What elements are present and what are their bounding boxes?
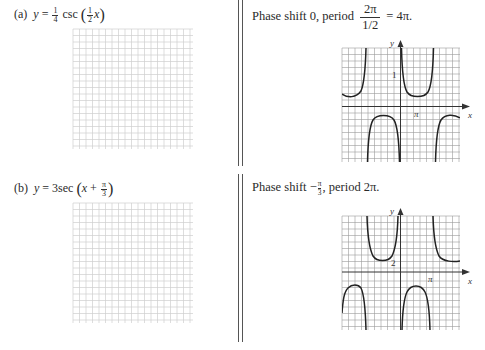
equals-sign: = [42, 181, 49, 195]
y-axis-label: y [389, 38, 394, 48]
y-axis-arrow-icon [398, 40, 404, 47]
blank-grid-b[interactable] [72, 202, 194, 324]
column-divider-b [238, 174, 243, 342]
answer-b-suffix: , period 2π. [322, 180, 379, 194]
x-axis-label: x [467, 276, 472, 286]
period-numerator: 2π [360, 2, 380, 18]
period-fraction: 2π 1/2 [360, 2, 380, 33]
period-denominator: 1/2 [360, 18, 380, 33]
close-paren: ) [108, 180, 113, 197]
y-axis-arrow-icon [398, 208, 404, 215]
problem-a-label: (a) [14, 7, 27, 21]
problem-b-equation: (b) y = 3sec (x + π 3 ) [14, 180, 113, 198]
grid-lines [73, 203, 193, 323]
answer-b-prefix: Phase shift − [252, 180, 317, 194]
coef-denominator: 4 [52, 16, 58, 24]
problem-b-label: (b) [14, 181, 28, 195]
answer-b-text: Phase shift − π 3 , period 2π. [252, 180, 379, 197]
answer-a-prefix: Phase shift 0, period [252, 9, 354, 23]
x-tick-label: π [414, 109, 419, 119]
argument-fraction: π 3 [101, 181, 107, 198]
answer-a-suffix: = 4π. [386, 9, 412, 23]
open-paren: ( [81, 6, 86, 23]
x-axis-arrow-icon [462, 269, 470, 275]
x-tick-label: π [428, 274, 433, 284]
problem-a-equation: (a) y = 1 4 csc ( 1 2 x) [14, 6, 105, 24]
lhs-var: y [33, 7, 38, 21]
equals-sign: = [42, 7, 49, 21]
y-tick-label: 1 [392, 70, 397, 80]
y-axis-label: y [389, 206, 394, 216]
blank-grid-a[interactable] [72, 28, 194, 150]
y-tick-label: 2 [391, 258, 396, 268]
close-paren: ) [99, 6, 104, 23]
arg-denominator: 2 [87, 16, 93, 24]
argument-fraction: 1 2 [87, 7, 93, 24]
coefficient-fraction: 1 4 [52, 7, 58, 24]
shift-denominator: 3 [318, 189, 322, 197]
x-axis-label: x [467, 110, 472, 120]
grid-lines [73, 29, 193, 149]
function-name: csc [62, 7, 77, 21]
phase-shift-fraction: π 3 [318, 180, 322, 197]
function-name: sec [58, 181, 73, 195]
lhs-var: y [34, 181, 39, 195]
answer-graph-a: y x 1 π [336, 36, 485, 166]
arg-operator: + [90, 181, 97, 195]
x-axis-arrow-icon [462, 104, 470, 110]
answer-a-text: Phase shift 0, period 2π 1/2 = 4π. [252, 2, 412, 33]
column-divider-a [238, 0, 243, 166]
arg-var: x [82, 181, 87, 195]
arg-denominator: 3 [101, 190, 107, 198]
answer-graph-b: y x 2 π [336, 204, 485, 336]
